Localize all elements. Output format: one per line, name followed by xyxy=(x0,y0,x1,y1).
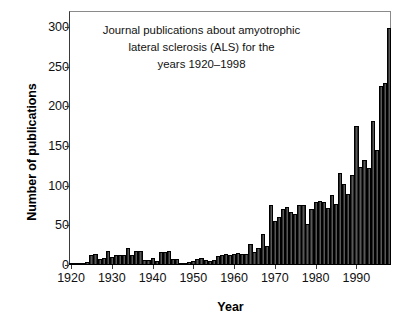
y-tick-label-250: 250 xyxy=(35,61,69,74)
x-tick-label-1920: 1920 xyxy=(49,272,93,285)
x-tick-mark-1920 xyxy=(71,265,72,269)
y-tick-label-200: 200 xyxy=(35,100,69,113)
x-tick-mark-1930 xyxy=(112,265,113,269)
y-tick-label-50: 50 xyxy=(35,219,69,232)
y-tick-label-150: 150 xyxy=(35,140,69,153)
x-tick-label-1980: 1980 xyxy=(294,272,338,285)
x-tick-label-1960: 1960 xyxy=(212,272,256,285)
x-tick-label-1940: 1940 xyxy=(131,272,175,285)
y-tick-label-300: 300 xyxy=(35,21,69,34)
als-publications-bar-chart: Number of publications Journal publicati… xyxy=(0,0,407,329)
x-tick-mark-1960 xyxy=(234,265,235,269)
x-axis-title: Year xyxy=(69,300,392,314)
x-tick-label-1950: 1950 xyxy=(171,272,215,285)
x-tick-mark-1970 xyxy=(275,265,276,269)
x-tick-mark-1990 xyxy=(356,265,357,269)
y-tick-mark-150 xyxy=(65,146,69,147)
y-tick-mark-300 xyxy=(65,27,69,28)
y-tick-label-0: 0 xyxy=(35,259,69,272)
y-tick-mark-100 xyxy=(65,186,69,187)
y-tick-label-100: 100 xyxy=(35,180,69,193)
x-tick-label-1990: 1990 xyxy=(334,272,378,285)
x-tick-label-1930: 1930 xyxy=(90,272,134,285)
y-tick-mark-200 xyxy=(65,106,69,107)
x-tick-label-1970: 1970 xyxy=(253,272,297,285)
y-tick-mark-250 xyxy=(65,67,69,68)
bar-1998 xyxy=(387,28,391,265)
y-tick-mark-50 xyxy=(65,225,69,226)
x-tick-mark-1940 xyxy=(153,265,154,269)
x-tick-mark-1980 xyxy=(316,265,317,269)
y-tick-mark-0 xyxy=(65,265,69,266)
x-tick-mark-1950 xyxy=(193,265,194,269)
bar-series xyxy=(70,12,390,265)
